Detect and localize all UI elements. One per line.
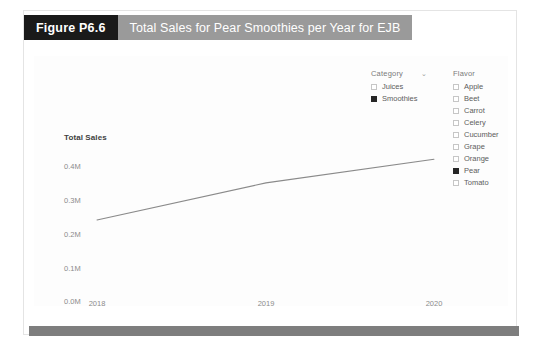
series-line-pear-smoothies bbox=[97, 159, 434, 220]
figure-card: Figure P6.6 Total Sales for Pear Smoothi… bbox=[23, 10, 517, 335]
line-chart-plot bbox=[34, 56, 508, 306]
footer-bar bbox=[29, 326, 519, 336]
chart-panel: Category ⌄ Juices Smoothies Flavor bbox=[34, 56, 508, 306]
figure-header: Figure P6.6 Total Sales for Pear Smoothi… bbox=[24, 15, 412, 40]
figure-title: Total Sales for Pear Smoothies per Year … bbox=[118, 15, 413, 40]
figure-tag: Figure P6.6 bbox=[24, 15, 118, 40]
